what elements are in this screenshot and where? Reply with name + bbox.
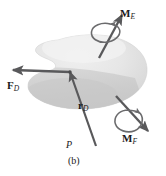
label-force-D: FD: [7, 80, 19, 91]
label-moment-E-symbol: M: [120, 7, 130, 19]
label-moment-E: ME: [120, 8, 135, 19]
label-moment-F: MF: [122, 133, 137, 144]
label-force-D-symbol: F: [7, 79, 14, 91]
label-position-D-subscript: D: [83, 104, 88, 113]
label-force-D-subscript: D: [14, 84, 19, 93]
point-marker-P: [68, 70, 71, 73]
label-moment-F-subscript: F: [132, 137, 137, 146]
label-moment-F-symbol: M: [122, 132, 132, 144]
blob-highlight: [42, 33, 126, 63]
label-point-P: P: [66, 140, 72, 150]
label-position-D: rD: [78, 100, 88, 111]
mechanics-figure: [0, 0, 166, 176]
figure-caption: (b): [68, 156, 80, 166]
label-moment-E-subscript: E: [130, 12, 135, 21]
